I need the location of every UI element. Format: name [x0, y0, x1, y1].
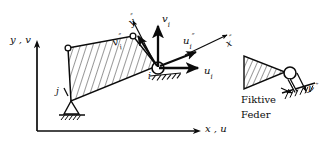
detail-node [284, 67, 296, 79]
v-i-base: v [162, 13, 168, 24]
node-i-ground-hatching [150, 73, 181, 81]
global-x-axis-label: x , u [205, 124, 227, 134]
v-i-sub: i [168, 21, 170, 29]
vector-u-i-double-prime-label: ui″ [183, 36, 195, 46]
global-y-axis-label: y , v [10, 35, 31, 45]
vector-u-i-label: ui [204, 66, 213, 76]
u-i-sub: i [210, 73, 212, 81]
detail-inset [244, 56, 315, 99]
fiktive-feder-caption-line2: Feder [241, 110, 270, 120]
vector-v-i-label: vi [162, 14, 170, 24]
u-i-pp-sub: i [189, 43, 191, 51]
vector-u-i-double-prime [160, 52, 196, 66]
fiktive-feder-caption-line1: Fiktive [241, 95, 276, 105]
u-i-pp-prime: ″ [192, 32, 195, 41]
figure-canvas: y , v x , u i j y″ x″ vi ui vi″ ui″ Fikt… [0, 0, 330, 149]
node-j-label: j [56, 87, 59, 96]
detail-element-body [244, 56, 285, 89]
node-i-label: i [148, 72, 151, 81]
